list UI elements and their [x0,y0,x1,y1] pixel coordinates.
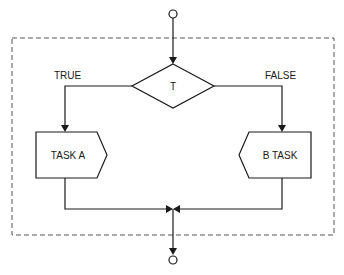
connector-false-branch [214,86,282,126]
arrow-down-icon [169,248,177,255]
arrow-down-icon [278,125,286,132]
task-b-label: B TASK [263,150,298,161]
end-terminal-circle [169,256,177,264]
decision-label: T [170,81,176,92]
branch-label-false: FALSE [265,70,296,81]
arrow-down-icon [61,125,69,132]
connector-task-a-to-merge [65,178,167,209]
arrow-right-icon [166,205,173,213]
arrow-down-icon [169,57,177,64]
start-terminal-circle [169,10,177,18]
branch-label-true: TRUE [54,70,82,81]
arrow-left-icon [173,205,180,213]
task-b-box: B TASK [239,132,311,178]
connector-true-branch [65,86,132,126]
decision-diamond: T [132,64,214,108]
task-a-label: TASK A [51,150,86,161]
task-a-box: TASK A [36,132,107,178]
flowchart-diagram: T TRUE FALSE TASK A B TASK [0,0,344,275]
connector-task-b-to-merge [179,178,282,209]
